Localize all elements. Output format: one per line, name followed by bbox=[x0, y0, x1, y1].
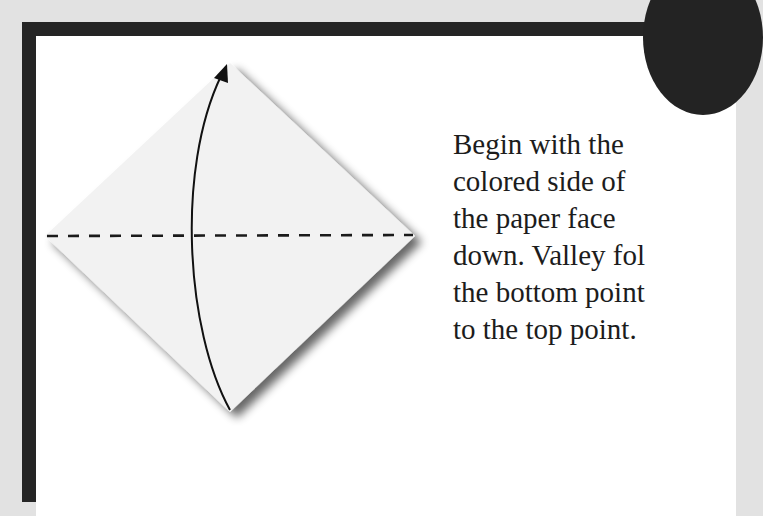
instruction-line: the paper face bbox=[453, 200, 713, 237]
instruction-text: Begin with the colored side of the paper… bbox=[453, 126, 713, 348]
instruction-line: colored side of bbox=[453, 163, 713, 200]
instruction-line: to the top point. bbox=[453, 311, 713, 348]
instruction-line: down. Valley fol bbox=[453, 237, 713, 274]
instruction-line: the bottom point bbox=[453, 274, 713, 311]
instruction-line: Begin with the bbox=[453, 126, 713, 163]
paper-diamond bbox=[45, 63, 415, 412]
